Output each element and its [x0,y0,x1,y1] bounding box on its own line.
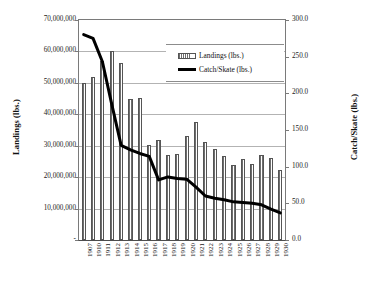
y-axis-right-tick-mark [286,20,289,21]
y-axis-left-tick-label: 50,000,000 [12,79,76,86]
y-axis-right-tick-mark [286,57,289,58]
x-axis-tick-label: 1911 [105,243,112,257]
y-axis-right-tick-mark [286,93,289,94]
y-axis-right-title: Catch/Skate (lbs.) [349,79,359,175]
x-axis-tick-label: 1913 [124,243,131,257]
x-axis-tick-label: 1918 [171,243,178,257]
y-axis-left-title: Landings (lbs.) [11,82,21,172]
y-axis-left-tick-label: 60,000,000 [12,47,76,54]
x-axis-tick-label: 1912 [115,243,122,257]
y-axis-right-tick-mark [286,203,289,204]
x-axis-tick-label: 1924 [227,243,234,257]
y-axis-right-tick-label: 100.0 [292,163,332,170]
x-axis-tick-label: 1915 [143,243,150,257]
legend-bar-swatch-icon [178,53,196,59]
y-axis-right-tick-mark [286,240,289,241]
x-axis-tick-label: 1907 [87,243,94,257]
legend-item-landings: Landings (lbs.) [170,49,280,62]
x-axis-tick-label: 1917 [162,243,169,257]
x-axis-tick-label: 1922 [208,243,215,257]
x-axis-tick-label: 1916 [152,243,159,257]
x-axis-tick-label: 1928 [265,243,272,257]
y-axis-left-tick-label: - [12,236,76,243]
x-axis-tick-label: 1930 [283,243,290,257]
legend-label-landings: Landings (lbs.) [199,51,244,60]
y-axis-left-tick-label: 40,000,000 [12,110,76,117]
y-axis-right-tick-label: 150.0 [292,126,332,133]
y-axis-left-tick-label: 10,000,000 [12,205,76,212]
x-axis-tick-label: 1926 [246,243,253,257]
x-axis-tick-labels: 1907191019111912191319141915191619171918… [79,243,285,287]
y-axis-right-tick-label: 300.0 [292,16,332,23]
y-axis-left-tick-label: 70,000,000 [12,16,76,23]
chart-container: Landings (lbs.) Catch/Skate (lbs.) -10,0… [0,0,368,287]
x-axis-tick-label: 1914 [134,243,141,257]
legend-item-catch-per-skate: Catch/Skate (lbs.) [170,63,280,76]
legend-label-catch-per-skate: Catch/Skate (lbs.) [199,65,252,74]
legend-line-swatch-icon [178,68,196,71]
y-axis-right-tick-label: 200.0 [292,89,332,96]
x-axis-tick-label: 1919 [180,243,187,257]
y-axis-right-tick-mark [286,167,289,168]
x-axis-tick-label: 1925 [237,243,244,257]
x-axis-tick-label: 1921 [199,243,206,257]
y-axis-left-tick-label: 30,000,000 [12,142,76,149]
x-axis-tick-label: 1927 [255,243,262,257]
x-axis-tick-label: 1923 [218,243,225,257]
x-axis-tick-label: 1910 [96,243,103,257]
chart-legend: Landings (lbs.) Catch/Skate (lbs.) [166,44,284,82]
y-axis-right-tick-label: 250.0 [292,53,332,60]
y-axis-right-tick-label: 0.0 [292,236,332,243]
y-axis-right-tick-label: 50.0 [292,199,332,206]
y-axis-right-tick-mark [286,130,289,131]
y-axis-left-tick-label: 20,000,000 [12,173,76,180]
x-axis-tick-label: 1920 [190,243,197,257]
x-axis-tick-label: 1929 [274,243,281,257]
